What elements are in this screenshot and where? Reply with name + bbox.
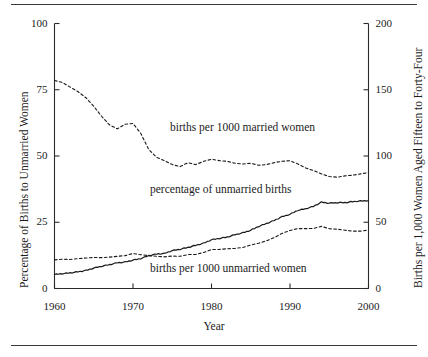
y-tick-label-right-150: 150 (376, 84, 393, 95)
x-tick-label-1980: 1980 (182, 301, 242, 312)
series-annotation-2: births per 1000 unmarried women (150, 262, 307, 274)
y-tick-label-right-0: 0 (376, 283, 382, 294)
x-tick-label-1960: 1960 (25, 301, 85, 312)
series-annotation-0: births per 1000 married women (170, 121, 315, 133)
y-tick-label-right-100: 100 (376, 150, 393, 161)
y-tick-label-right-200: 200 (376, 18, 393, 29)
axes-group (55, 24, 369, 289)
series-annotation-1: percentage of unmarried births (150, 183, 291, 195)
series-group (55, 80, 369, 274)
series-line-2 (55, 226, 369, 260)
y-axis-label-right: Births per 1,000 Women Aged Fifteen to F… (412, 48, 424, 288)
y-axis-label-left: Percentage of Births to Unmarried Women (18, 91, 30, 288)
x-axis-label: Year (0, 320, 428, 332)
figure-container: 0255075100050100150200196019701980199020… (0, 0, 428, 357)
x-tick-label-1990: 1990 (260, 301, 320, 312)
x-tick-label-2000: 2000 (339, 301, 399, 312)
y-tick-label-left-100: 100 (0, 18, 48, 29)
y-tick-label-right-50: 50 (376, 216, 387, 227)
x-tick-label-1970: 1970 (103, 301, 163, 312)
